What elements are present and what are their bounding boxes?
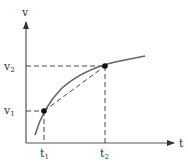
y-axis-label: v — [21, 6, 29, 19]
x-axis-label: t — [179, 137, 184, 150]
secant-chord — [44, 66, 105, 111]
velocity-time-diagram: v t v2 v1 t1 t2 — [0, 0, 188, 165]
v1-label: v1 — [3, 104, 15, 118]
t2-label: t2 — [100, 147, 109, 161]
t1-label: t1 — [40, 147, 49, 161]
point-1 — [41, 108, 47, 114]
v2-label: v2 — [3, 60, 15, 74]
point-2 — [102, 63, 108, 69]
velocity-curve — [35, 56, 145, 135]
